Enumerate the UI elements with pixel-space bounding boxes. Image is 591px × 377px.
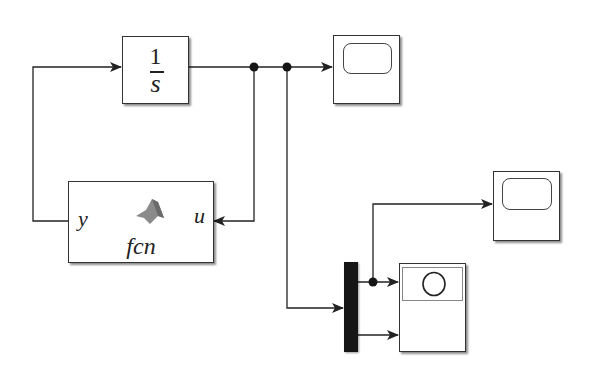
circle-plot-icon xyxy=(421,270,447,298)
function-name: fcn xyxy=(69,233,213,260)
integrator-block[interactable]: 1 s xyxy=(122,36,189,104)
output-port-label: u xyxy=(194,203,205,229)
integrator-numerator: 1 xyxy=(123,43,188,70)
junction-dot xyxy=(250,63,259,72)
integrator-denominator: s xyxy=(123,69,188,99)
xy-graph-screen xyxy=(402,267,463,301)
scope-screen-icon xyxy=(343,43,392,74)
input-port-label: y xyxy=(78,206,88,232)
junction-dot xyxy=(369,278,378,287)
scope-block-2[interactable] xyxy=(493,171,560,241)
scope-screen-icon xyxy=(502,178,552,210)
scope-block-1[interactable] xyxy=(333,35,400,104)
mux-block[interactable] xyxy=(344,262,358,352)
xy-graph-block[interactable] xyxy=(399,263,466,352)
matlab-logo-icon xyxy=(134,196,168,226)
wire-to-fcn-u xyxy=(214,67,254,221)
matlab-function-block[interactable]: y u fcn xyxy=(68,181,214,263)
junction-dot xyxy=(283,63,292,72)
